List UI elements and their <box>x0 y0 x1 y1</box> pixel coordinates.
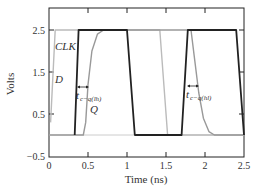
d-label: D <box>54 73 63 85</box>
tcq-lh-sub: c−q(lh) <box>80 95 102 103</box>
y-axis-label: Volts <box>4 73 16 95</box>
x-tick-label: 1.5 <box>160 160 173 171</box>
y-tick-label: 1.5 <box>33 67 46 78</box>
series-clk-line <box>75 30 244 135</box>
x-axis-label: Time (ns) <box>125 173 168 186</box>
tcq-hl-sub: c−q(hl) <box>190 94 212 102</box>
x-tick-label: 1 <box>125 160 130 171</box>
clk-label: CLK <box>55 40 76 52</box>
y-tick-label: −0.5 <box>27 151 45 162</box>
y-tick-label: 2.5 <box>33 25 46 36</box>
q-label: Q <box>90 103 98 115</box>
series-d-line <box>51 30 244 135</box>
y-tick-label: 0.5 <box>33 109 46 120</box>
tcq-lh-annotation: t c−q(lh) <box>76 86 102 104</box>
x-tick-label: 0.5 <box>82 160 95 171</box>
x-tick-label: 2.5 <box>238 160 251 171</box>
x-tick-label: 0 <box>47 160 52 171</box>
series-layer <box>49 30 244 135</box>
timing-chart: 0 0.5 1 1.5 2 2.5 −0.5 0.5 1.5 2.5 Time … <box>0 0 255 195</box>
x-tick-label: 2 <box>203 160 208 171</box>
tcq-hl-annotation: t c−q(hl) <box>186 85 212 103</box>
